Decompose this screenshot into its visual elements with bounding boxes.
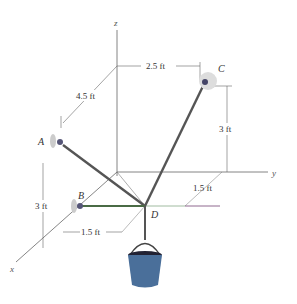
point-label-d: D [150, 209, 159, 220]
dim-label-b-1-5ft: 1.5 ft [81, 227, 100, 237]
cable-ad [63, 145, 145, 206]
diagram: z y x 2.5 ft 4.5 ft 3 ft 1.5 ft 3 ft 1.5… [0, 0, 297, 304]
dim-label-c-3ft: 3 ft [219, 124, 232, 134]
point-label-c: C [218, 63, 225, 74]
dim-label-b-3ft: 3 ft [35, 201, 48, 211]
anchor-c [199, 72, 217, 90]
y-axis-label: y [271, 168, 276, 178]
anchor-b [71, 199, 83, 213]
dim-label-d-1-5ft: 1.5 ft [193, 183, 212, 193]
anchor-a [50, 134, 63, 148]
dim-label-4-5ft: 4.5 ft [76, 91, 95, 101]
dim-label-2-5ft: 2.5 ft [146, 61, 165, 71]
x-axis [16, 172, 117, 262]
point-label-a: A [37, 136, 45, 147]
bucket [128, 244, 162, 288]
z-axis-label: z [113, 18, 118, 28]
x-axis-label: x [9, 264, 14, 274]
point-label-b: B [78, 190, 84, 201]
dim-line [122, 206, 145, 232]
